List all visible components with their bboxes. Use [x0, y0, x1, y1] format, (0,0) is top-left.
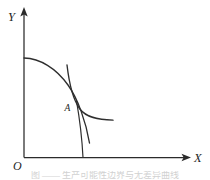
production-possibility-frontier-curve — [24, 58, 90, 143]
indifference-curve — [67, 65, 113, 120]
figure-caption: 图 —— 生产可能性边界与无差异曲线 — [0, 171, 210, 180]
point-a-label: A — [64, 103, 71, 113]
x-axis-label: X — [193, 151, 203, 165]
figure-container: Y X O A 图 —— 生产可能性边界与无差异曲线 — [0, 0, 210, 180]
coordinate-diagram-svg: Y X O A — [0, 0, 210, 180]
y-axis-label: Y — [8, 10, 17, 24]
